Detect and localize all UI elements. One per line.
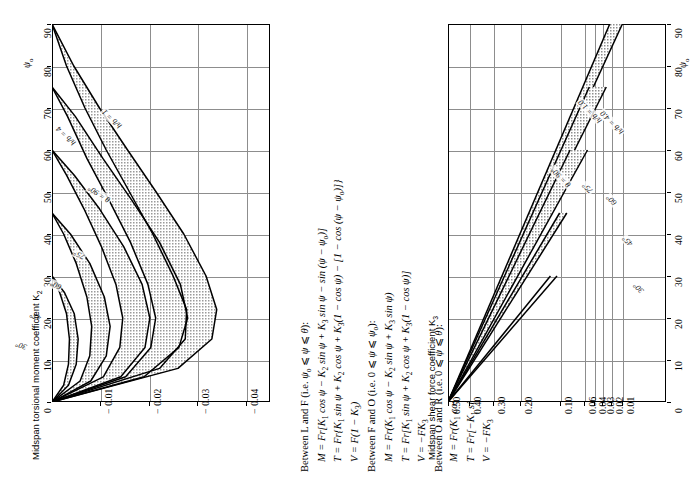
axis-tick-label: 0.02 bbox=[615, 397, 625, 414]
axis-tick bbox=[667, 318, 671, 319]
axis-tick-label: − 0.04 bbox=[250, 388, 260, 414]
psi-o-label-right: ψo bbox=[678, 59, 690, 68]
formula-heading: Between L and F (i.e. ψo ⩽ ψ ⩽ θ): bbox=[298, 42, 314, 472]
axis-tick-label: 20 bbox=[674, 319, 684, 329]
axis-tick bbox=[667, 66, 671, 67]
axis-tick-label: 10 bbox=[43, 361, 53, 371]
axis-tick bbox=[667, 108, 671, 109]
curve bbox=[448, 213, 567, 402]
axis-tick bbox=[667, 402, 671, 403]
axis-tick bbox=[47, 402, 51, 403]
formula-equation: V = F(1 − K3) bbox=[348, 42, 364, 462]
axis-tick-label: 0.06 bbox=[588, 397, 598, 414]
axis-tick-label: 80 bbox=[43, 67, 53, 77]
curve bbox=[448, 24, 610, 402]
axis-tick-label: 90 bbox=[674, 28, 684, 38]
axis-tick-label: 0 bbox=[674, 408, 684, 413]
axis-tick-label: 50 bbox=[43, 193, 53, 203]
axis-tick-label: 10 bbox=[674, 361, 684, 371]
formula-equation: M = Fr(K1 cos ψ − K2 sin ψ + K3 sin ψ) bbox=[382, 42, 398, 462]
axis-tick bbox=[667, 150, 671, 151]
axis-tick-label: − 0.02 bbox=[153, 388, 163, 414]
curve bbox=[448, 150, 570, 402]
axis-tick-label: 60 bbox=[674, 151, 684, 161]
formula-group: Between L and F (i.e. ψo ⩽ ψ ⩽ θ):M = Fr… bbox=[298, 42, 364, 472]
axis-tick bbox=[667, 192, 671, 193]
curve-label: 30° bbox=[13, 339, 28, 352]
axis-tick bbox=[667, 276, 671, 277]
axis-tick-label: 50 bbox=[674, 193, 684, 203]
axis-tick bbox=[584, 402, 585, 406]
axis-tick bbox=[197, 402, 198, 406]
axis-tick-label: 70 bbox=[43, 109, 53, 119]
axis-tick bbox=[520, 402, 521, 406]
axis-tick bbox=[149, 402, 150, 406]
axis-tick-label: 0 bbox=[43, 408, 53, 413]
shear-force-panel: 01020304050607080900.500.400.300.200.100… bbox=[420, 0, 692, 487]
axis-tick-label: 20 bbox=[43, 319, 53, 329]
axis-tick-label: 80 bbox=[674, 67, 684, 77]
shear-force-curves bbox=[448, 24, 666, 402]
axis-tick bbox=[667, 24, 671, 25]
axis-tick bbox=[246, 402, 247, 406]
axis-tick-label: 0.10 bbox=[564, 397, 574, 414]
psi-o-label-left: ψo bbox=[22, 59, 34, 68]
torsional-moment-panel: 0102030405060708090− 0.01− 0.02− 0.03− 0… bbox=[0, 0, 290, 487]
axis-tick bbox=[560, 402, 561, 406]
axis-tick bbox=[667, 234, 671, 235]
axis-tick-label: 30 bbox=[674, 277, 684, 287]
axis-tick bbox=[100, 402, 101, 406]
shear-force-axis-title: Midspan shear force coefficient K3 bbox=[426, 316, 439, 460]
axis-tick-label: 0.20 bbox=[524, 397, 534, 414]
axis-tick-label: − 0.03 bbox=[201, 388, 211, 414]
axis-tick bbox=[493, 402, 494, 406]
axis-tick-label: 60 bbox=[43, 151, 53, 161]
axis-tick bbox=[448, 402, 449, 406]
axis-tick bbox=[469, 402, 470, 406]
axis-tick-label: 40 bbox=[674, 235, 684, 245]
torsional-moment-curves bbox=[52, 24, 270, 402]
axis-tick bbox=[667, 360, 671, 361]
figure-root: 0102030405060708090− 0.01− 0.02− 0.03− 0… bbox=[0, 0, 692, 487]
formula-equation: T = Fr[K1 sin ψ + K2 cos ψ + K3(1 − cos … bbox=[399, 42, 415, 462]
axis-tick bbox=[47, 24, 51, 25]
axis-tick-label: 0.30 bbox=[497, 397, 507, 414]
axis-tick-label: 40 bbox=[43, 235, 53, 245]
torsional-moment-axis-title: Midspan torsional moment coefficient K2 bbox=[30, 291, 43, 460]
formula-equation: M = Fr[K1 cos ψ − K2 sin ψ + K3 sin ψ − … bbox=[315, 42, 331, 462]
formula-heading: Between F and O (i.e. 0 ⩽ ψ ⩽ ψo): bbox=[365, 42, 381, 472]
curve bbox=[448, 213, 560, 402]
curve bbox=[448, 87, 589, 402]
formula-equation: T = Fr{K1 sin ψ + K2 cos ψ + K3(1 − cos … bbox=[331, 42, 347, 462]
axis-tick-label: 0.50 bbox=[452, 397, 462, 414]
axis-tick-label: 70 bbox=[674, 109, 684, 119]
axis-tick-label: 0.01 bbox=[626, 397, 636, 414]
axis-tick-label: 90 bbox=[43, 28, 53, 38]
axis-tick-label: 0.40 bbox=[473, 397, 483, 414]
axis-tick-label: − 0.01 bbox=[104, 388, 114, 414]
